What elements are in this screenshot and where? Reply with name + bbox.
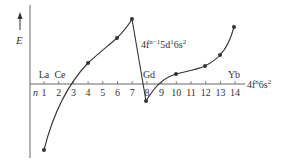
element-label-ce: Ce: [54, 69, 66, 80]
x-tick-labels: 1234567891011121314: [42, 87, 241, 98]
data-point: [144, 99, 148, 103]
x-tick-label: 11: [186, 87, 196, 98]
x-tick-label: 2: [56, 87, 61, 98]
data-point: [218, 53, 222, 57]
data-point: [115, 36, 119, 40]
x-tick-label: 10: [171, 87, 181, 98]
data-point: [130, 17, 134, 21]
y-axis-label: E: [15, 34, 23, 46]
element-label-la: La: [39, 69, 50, 80]
x-tick-label: 3: [71, 87, 76, 98]
x-tick-label: 14: [230, 87, 240, 98]
x-tick-label: 6: [115, 87, 120, 98]
x-tick-label: 7: [130, 87, 135, 98]
config-label-4fn-6s2: 4fn6s2: [247, 78, 272, 90]
data-point: [174, 72, 178, 76]
element-label-gd: Gd: [143, 69, 155, 80]
lanthanide-energy-diagram: E 1234567891011121314 n La Ce Gd Yb 4fn−…: [0, 0, 287, 160]
energy-arrow-icon: [18, 12, 23, 30]
data-point: [203, 64, 207, 68]
x-tick-label: 1: [42, 87, 47, 98]
data-point: [42, 148, 46, 152]
x-tick-label: 12: [201, 87, 211, 98]
x-tick-label: 13: [215, 87, 225, 98]
x-tick-label: 4: [86, 87, 91, 98]
x-tick-label: 9: [159, 87, 164, 98]
element-label-yb: Yb: [228, 69, 240, 80]
data-point: [232, 25, 236, 29]
config-label-4fn-1-5d1-6s2: 4fn−15d16s2: [141, 38, 187, 50]
x-tick-label: 5: [100, 87, 105, 98]
n-label: n: [33, 87, 38, 98]
data-point: [86, 61, 90, 65]
